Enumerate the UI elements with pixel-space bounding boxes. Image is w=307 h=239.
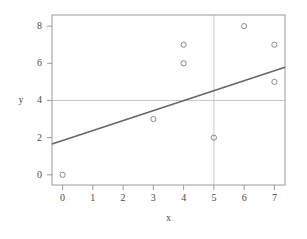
- x-tick-label: 6: [234, 193, 254, 203]
- y-tick-label: 0: [24, 170, 42, 180]
- data-point: [181, 61, 186, 66]
- x-tick-label: 1: [83, 193, 103, 203]
- data-point: [272, 79, 277, 84]
- data-point: [181, 42, 186, 47]
- regression-line: [52, 67, 285, 144]
- data-point: [242, 24, 247, 29]
- y-tick-label: 2: [24, 133, 42, 143]
- y-axis-title: y: [14, 95, 28, 105]
- x-tick-label: 7: [264, 193, 284, 203]
- plot-canvas: [0, 0, 307, 239]
- reference-lines-group: [52, 15, 285, 185]
- x-tick-label: 5: [204, 193, 224, 203]
- scatter-plot-figure: 01234567 02468 x y: [0, 0, 307, 239]
- y-tick-label: 8: [24, 21, 42, 31]
- data-point: [272, 42, 277, 47]
- x-tick-label: 2: [113, 193, 133, 203]
- x-tick-label: 4: [174, 193, 194, 203]
- y-tick-label: 6: [24, 58, 42, 68]
- data-point: [151, 116, 156, 121]
- x-tick-label: 3: [143, 193, 163, 203]
- x-axis-title: x: [149, 213, 189, 223]
- data-point: [60, 172, 65, 177]
- x-tick-label: 0: [53, 193, 73, 203]
